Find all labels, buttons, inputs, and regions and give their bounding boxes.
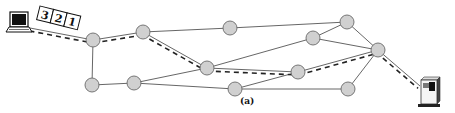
link-G-J (134, 68, 207, 83)
link-E-F (313, 38, 378, 50)
network-diagram: 3 2 1 (0, 0, 455, 113)
router-node-C (223, 21, 237, 35)
link-B-C (143, 28, 230, 32)
router-node-J (127, 76, 141, 90)
route-segment-src-A (29, 31, 92, 43)
link-F-dst (378, 50, 420, 86)
router-node-G (200, 61, 214, 75)
router-node-I (85, 78, 99, 92)
link-J-K (134, 83, 235, 89)
router-node-H (291, 65, 305, 79)
link-H-F (298, 50, 378, 72)
packet-1: 1 (64, 13, 81, 30)
router-nodes (85, 15, 385, 96)
router-node-B (136, 25, 150, 39)
link-C-D (230, 22, 347, 28)
router-node-L (341, 82, 355, 96)
router-node-D (340, 15, 354, 29)
route-segment-B-G (142, 35, 206, 71)
router-node-K (228, 82, 242, 96)
router-node-A (86, 33, 100, 47)
router-node-E (306, 31, 320, 45)
link-src-A (30, 28, 93, 40)
route-segment-F-dst (376, 52, 418, 88)
link-B-G (143, 32, 207, 68)
packet-sequence: 3 2 1 (36, 6, 80, 30)
server-icon (418, 77, 440, 107)
figure-caption: (a) (240, 96, 254, 106)
router-node-F (371, 43, 385, 57)
laptop-icon (6, 12, 32, 32)
link-E-G (207, 38, 313, 68)
link-A-B (93, 32, 143, 40)
